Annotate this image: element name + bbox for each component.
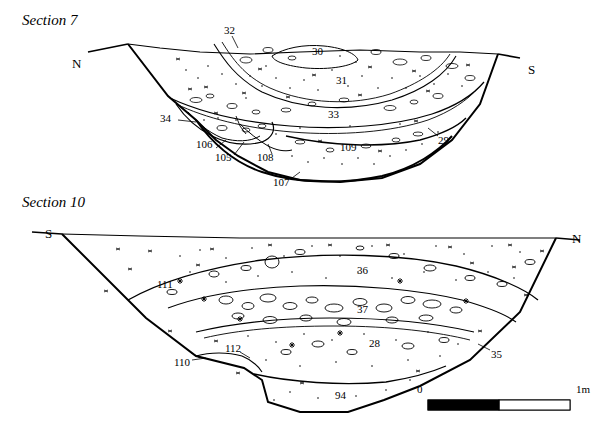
section-7-title: Section 7 <box>22 12 77 29</box>
context-label-112: 112 <box>225 342 241 354</box>
section-7-cardinal-left: N <box>72 56 81 72</box>
charcoal-symbols-s10 <box>177 278 469 348</box>
context-label-37: 37 <box>357 303 368 315</box>
context-label-31: 31 <box>336 74 347 86</box>
context-label-108: 108 <box>257 151 274 163</box>
context-label-30: 30 <box>312 45 323 57</box>
leader-34-s7 <box>178 120 196 122</box>
context-label-32: 32 <box>224 24 235 36</box>
clast-symbols-s10 <box>167 246 535 355</box>
context-label-35: 35 <box>491 348 502 360</box>
cut-107-outline-s7 <box>196 120 452 182</box>
context-label-110: 110 <box>174 356 190 368</box>
section-10-cardinal-right: N <box>572 231 581 247</box>
section-10-drawing <box>32 232 580 412</box>
scale-bar-zero-label: 0 <box>417 383 423 395</box>
cut-112-s10 <box>196 353 262 372</box>
ground-line-left-s7 <box>88 44 128 52</box>
ditch-cut-outline-s10 <box>62 234 556 412</box>
section-10-title: Section 10 <box>22 194 85 211</box>
scale-bar-max-label: 1m <box>576 383 590 395</box>
layer-boundary-top-s10 <box>62 234 556 238</box>
context-label-28: 28 <box>369 337 380 349</box>
figure-canvas: Section 7 N S 32 30 31 33 34 106 105 108… <box>0 0 613 433</box>
context-label-33: 33 <box>328 108 339 120</box>
layer-boundary-36-37-s10 <box>168 286 516 322</box>
leader-35-s10 <box>478 344 490 350</box>
leader-29-s7 <box>428 128 438 136</box>
flint-ticks-s10 <box>104 244 544 384</box>
layer-boundary-111-36-s10 <box>128 255 538 300</box>
scale-bar-graphic <box>428 400 570 410</box>
context-label-106: 106 <box>196 138 213 150</box>
context-label-29: 29 <box>438 134 449 146</box>
context-label-34: 34 <box>160 112 171 124</box>
section-7-drawing <box>88 36 520 182</box>
section-10-cardinal-left: S <box>45 226 52 242</box>
context-label-111: 111 <box>157 278 173 290</box>
layer-boundary-33-lower-s7 <box>176 88 478 134</box>
section-7-cardinal-right: S <box>528 62 535 78</box>
layer-boundary-37-base-s10 <box>196 318 474 332</box>
layer-boundary-33-s7 <box>170 82 484 128</box>
leader-107-s7 <box>292 172 300 178</box>
leader-32-s7 <box>232 36 238 48</box>
archaeological-sections-drawing <box>0 0 613 433</box>
ground-line-right-s7 <box>498 54 520 58</box>
stipple-s10 <box>179 245 521 401</box>
context-label-36: 36 <box>357 264 368 276</box>
context-label-107: 107 <box>273 176 290 188</box>
context-label-109: 109 <box>340 141 357 153</box>
context-label-94: 94 <box>335 389 346 401</box>
layer-boundary-28-94-s10 <box>254 366 446 384</box>
context-label-105: 105 <box>215 151 232 163</box>
